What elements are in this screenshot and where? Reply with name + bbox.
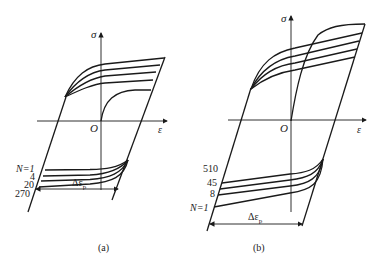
epsilon-label-a: ε (158, 124, 162, 135)
epsilon-label-b: ε (357, 124, 361, 135)
cycle-label-8-b: 8 (210, 188, 215, 199)
caption-b: (b) (253, 242, 265, 254)
sigma-label-b: σ (281, 12, 287, 24)
origin-label-b: O (280, 122, 288, 134)
range-prefix: Δε (248, 211, 259, 222)
cycle-label-270-a: 270 (15, 188, 30, 199)
panel-b-labels: σ ε O 510 45 8 N=1 Δεp (b) (189, 12, 361, 254)
hysteresis-diagram: σ ε O N=1 4 20 270 Δεp (a) σ ε O 510 (0, 0, 384, 269)
bottom-branch-b (222, 159, 323, 183)
range-sub: p (83, 183, 87, 191)
left-elastic-line-a (28, 97, 66, 212)
bottom-branch-b (220, 159, 323, 189)
cycle-label-n1-b: N=1 (189, 202, 208, 213)
sigma-label-a: σ (91, 28, 97, 40)
panel-a-labels: σ ε O N=1 4 20 270 Δεp (a) (15, 28, 162, 254)
cycle-label-510-b: 510 (203, 163, 218, 174)
caption-a: (a) (98, 242, 109, 254)
initial-loading-curve-b (291, 24, 365, 121)
range-sub: p (259, 217, 263, 225)
cycle-label-45-b: 45 (207, 177, 217, 188)
top-branch-a (65, 58, 164, 97)
left-elastic-line-b (207, 88, 251, 231)
top-branch-b (251, 41, 359, 89)
range-prefix: Δε (72, 177, 83, 188)
bottom-branch-a (45, 160, 128, 170)
plastic-strain-range-label-b: Δεp (248, 211, 263, 225)
origin-label-a: O (90, 122, 98, 134)
